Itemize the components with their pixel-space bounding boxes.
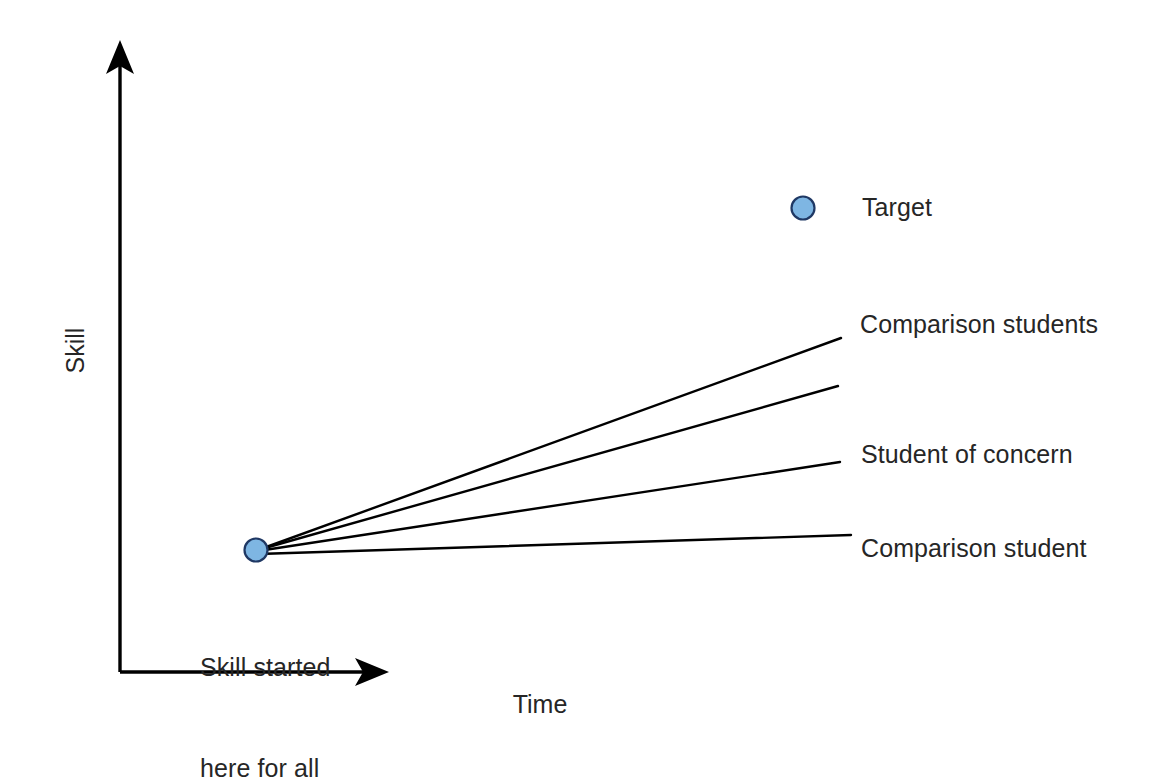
y-axis-title: Skill bbox=[61, 271, 90, 431]
trend-line-comparison-students bbox=[258, 338, 841, 550]
x-axis-title: Time bbox=[430, 690, 650, 719]
origin-marker-point bbox=[245, 539, 268, 562]
annotation-origin-note: Skill started here for all bbox=[200, 584, 331, 781]
label-target: Target bbox=[862, 191, 932, 225]
annotation-origin-note-line2: here for all bbox=[200, 752, 331, 781]
label-comparison-students: Comparison students bbox=[860, 308, 1098, 342]
y-axis bbox=[106, 40, 134, 672]
label-comparison-student: Comparison student bbox=[861, 532, 1087, 566]
trend-lines bbox=[258, 338, 851, 554]
target-marker-point bbox=[792, 197, 815, 220]
label-student-of-concern: Student of concern bbox=[861, 438, 1073, 472]
trend-line-comparison-students-second bbox=[258, 386, 838, 550]
annotation-origin-note-line1: Skill started bbox=[200, 651, 331, 685]
